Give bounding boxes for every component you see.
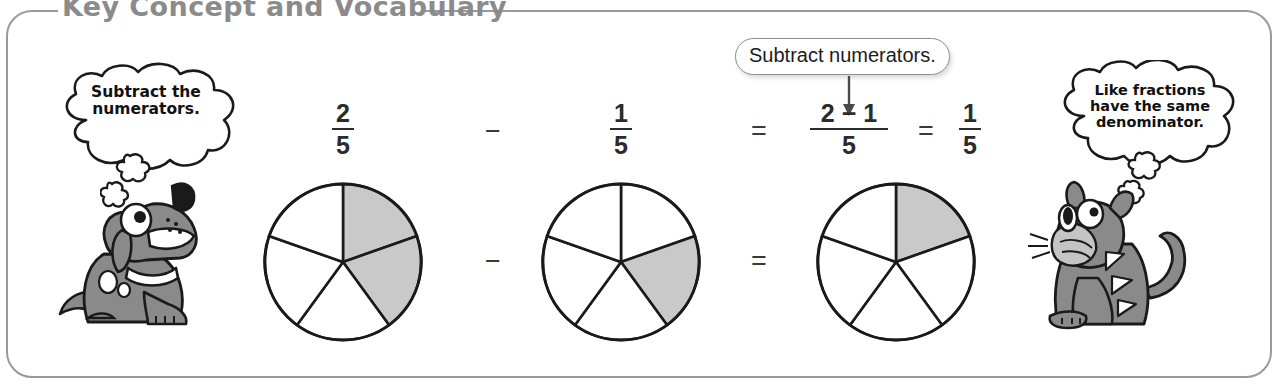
page-title: Key Concept and Vocabulary <box>62 0 507 22</box>
operator-minus-fractions: − <box>478 118 508 145</box>
fraction-1-numerator: 2 <box>322 100 364 126</box>
cat-character-icon <box>1026 178 1222 346</box>
fraction-model-1 <box>263 182 423 342</box>
fraction-model-3 <box>816 182 976 342</box>
operator-equals-fractions: = <box>743 118 775 145</box>
operator-minus-models: − <box>478 248 508 275</box>
fraction-1-denominator: 5 <box>322 132 364 158</box>
fraction-4-denominator: 5 <box>949 132 991 158</box>
callout-subtract-numerators: Subtract numerators. <box>735 38 950 75</box>
worksheet-page: Key Concept and Vocabulary Subtract the … <box>0 0 1287 390</box>
fraction-1-bar <box>332 128 354 130</box>
fraction-4-bar <box>959 128 981 130</box>
operator-equals-result: = <box>910 118 942 145</box>
fraction-2-numerator: 1 <box>600 100 642 126</box>
dog-thought-text: Subtract the numerators. <box>62 84 230 119</box>
fraction-label-1: 2 5 <box>322 100 364 159</box>
fraction-label-3: 2 − 1 5 <box>800 100 898 159</box>
operator-equals-models: = <box>743 248 775 275</box>
fraction-3-numerator: 2 − 1 <box>800 100 898 126</box>
cat-thought-text: Like fractions have the same denominator… <box>1062 82 1238 131</box>
fraction-model-2 <box>541 182 701 342</box>
dog-character-icon <box>52 172 220 340</box>
fraction-3-bar <box>810 128 888 130</box>
fraction-3-denominator: 5 <box>800 132 898 158</box>
fraction-4-numerator: 1 <box>949 100 991 126</box>
fraction-label-2: 1 5 <box>600 100 642 159</box>
fraction-2-denominator: 5 <box>600 132 642 158</box>
fraction-label-4: 1 5 <box>949 100 991 159</box>
fraction-2-bar <box>610 128 632 130</box>
